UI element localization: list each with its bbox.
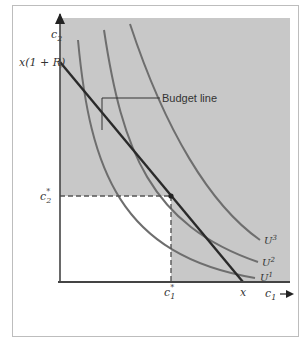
x-axis-label: c1 — [265, 287, 276, 302]
budget-line-label: Budget line — [162, 92, 217, 104]
consumption-diagram: c2 c1 x(1 + R) x Budget line c2* c1* U1 … — [0, 0, 307, 344]
optimum-point — [168, 193, 173, 198]
x-intercept-label: x — [240, 286, 247, 299]
shaded-region — [60, 18, 290, 282]
c2-star-label: c2* — [40, 187, 51, 205]
c1-star-label: c1* — [164, 283, 175, 301]
x-axis-arrow-icon — [286, 290, 294, 298]
y-intercept-label: x(1 + R) — [19, 56, 65, 69]
